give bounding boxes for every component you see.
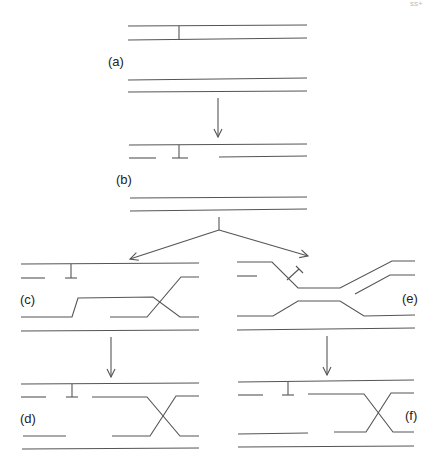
intact-duplex-bottom-strand (130, 209, 307, 211)
panel-label-c: (c) (20, 292, 35, 307)
intact-duplex-top-strand (130, 197, 307, 198)
top-strand (21, 263, 199, 264)
duplex-2-top-strand (128, 78, 307, 80)
arrow-to-e (219, 230, 308, 256)
crossing-strand-1 (92, 397, 199, 436)
bottom-strand (238, 446, 414, 447)
panel-label-b: (b) (116, 172, 132, 187)
panel-a: (a) (108, 25, 307, 92)
panel-d: (d) (20, 383, 199, 449)
cut-site-bar (296, 266, 303, 273)
cut-site-marker (287, 269, 299, 280)
cut-duplex-bottom-right (219, 156, 307, 157)
arrow-to-c (130, 230, 219, 259)
duplex-2-bottom-strand (128, 91, 307, 92)
panel-f: (f) (238, 380, 417, 447)
duplex-1-top-strand (128, 25, 307, 26)
invading-strand (21, 297, 199, 317)
panel-label-f: (f) (405, 408, 417, 423)
bottom-strand (22, 448, 199, 449)
cut-duplex-top-strand (129, 144, 307, 145)
panel-e: (e) (237, 261, 418, 330)
panel-b: (b) (116, 144, 307, 211)
crossing-strand-2 (112, 396, 199, 436)
bottom-strand (237, 328, 415, 330)
bottom-strand (21, 330, 199, 331)
branching-arrows (130, 217, 308, 259)
crossing-strand-1 (308, 394, 414, 432)
recombination-diagram: ss+ (a) (b) (c) (0, 0, 437, 467)
crossing-strand-2 (334, 393, 414, 432)
panel-label-e: (e) (402, 291, 418, 306)
panel-label-a: (a) (108, 54, 124, 69)
bottom-left-strand (238, 433, 308, 434)
top-strand (21, 383, 199, 384)
invading-strand (237, 301, 415, 316)
page-number: ss+ (410, 0, 423, 8)
panel-label-d: (d) (20, 411, 36, 426)
top-strand (238, 380, 414, 382)
top-strand (237, 261, 415, 288)
panel-c: (c) (20, 263, 199, 331)
duplex-1-bottom-strand (128, 38, 307, 40)
